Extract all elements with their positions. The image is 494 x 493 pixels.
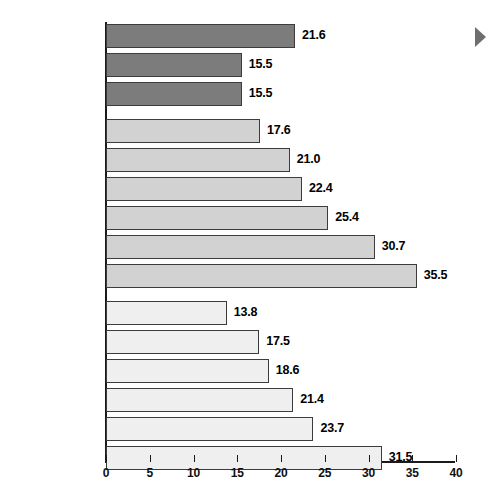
bar [106, 148, 290, 172]
x-axis-tick-mark [194, 455, 195, 462]
x-axis-tick-mark [150, 455, 151, 462]
bar [106, 330, 259, 354]
x-axis-tick-label: 15 [222, 466, 252, 480]
bar-value-label: 31.5 [389, 450, 413, 464]
bar [106, 417, 313, 441]
x-axis-tick-mark [281, 455, 282, 462]
bar-value-label: 21.0 [297, 152, 321, 166]
bar-value-label: 30.7 [382, 239, 406, 253]
bar-value-label: 15.5 [249, 86, 273, 100]
x-axis-tick-mark [369, 455, 370, 462]
x-axis-tick-label: 20 [266, 466, 296, 480]
x-axis-tick-mark [237, 455, 238, 462]
bar [106, 177, 302, 201]
bar-chart: All persons 2+21.6Children 2–1115.5Teens… [0, 0, 494, 493]
x-axis-tick-mark [412, 455, 413, 462]
bar [106, 388, 293, 412]
x-axis-tick-label: 40 [441, 466, 471, 480]
bar-value-label: 23.7 [320, 421, 344, 435]
x-axis-tick-label: 10 [179, 466, 209, 480]
bar [106, 235, 375, 259]
x-axis-tick-mark [106, 455, 107, 462]
bar-value-label: 21.4 [300, 392, 324, 406]
bar [106, 206, 328, 230]
bar [106, 82, 242, 106]
bar [106, 301, 227, 325]
bar-value-label: 18.6 [276, 363, 300, 377]
plot-area: All persons 2+21.6Children 2–1115.5Teens… [0, 0, 494, 493]
bar [106, 53, 242, 77]
bar-value-label: 17.5 [266, 334, 290, 348]
x-axis-tick-label: 30 [354, 466, 384, 480]
bar-value-label: 15.5 [249, 57, 273, 71]
bar-value-label: 25.4 [335, 210, 359, 224]
play-arrow-icon[interactable] [475, 27, 486, 47]
x-axis-tick-mark [325, 455, 326, 462]
x-axis-tick-mark [456, 455, 457, 462]
bar-value-label: 13.8 [234, 305, 258, 319]
bar-value-label: 21.6 [302, 28, 326, 42]
bar [106, 119, 260, 143]
bar-value-label: 35.5 [424, 268, 448, 282]
x-axis-tick-label: 25 [310, 466, 340, 480]
bar-value-label: 17.6 [267, 123, 291, 137]
bar [106, 359, 269, 383]
x-axis-tick-label: 35 [397, 466, 427, 480]
bar-value-label: 22.4 [309, 181, 333, 195]
bar [106, 24, 295, 48]
x-axis-tick-label: 0 [91, 466, 121, 480]
x-axis-tick-label: 5 [135, 466, 165, 480]
bar [106, 264, 417, 288]
